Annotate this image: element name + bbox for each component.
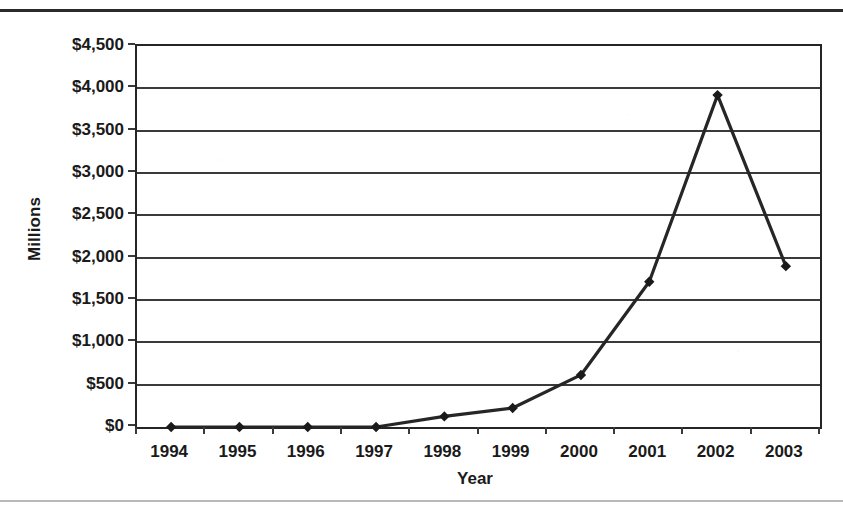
x-tick-mark [203,427,205,434]
x-tick-mark [750,427,752,434]
x-axis-title: Year [415,469,535,489]
page-rule-bottom [0,500,843,502]
y-tick-label: $3,500 [0,120,124,137]
x-tick-mark [477,427,479,434]
x-tick-mark [681,427,683,434]
y-tick-label: $2,500 [0,205,124,222]
y-tick-mark [128,128,135,130]
x-tick-mark [818,427,820,434]
y-tick-mark [128,255,135,257]
x-tick-label: 2003 [744,443,824,460]
y-axis-tick-labels: $0$500$1,000$1,500$2,000$2,500$3,000$3,5… [0,44,128,425]
y-tick-mark [128,170,135,172]
line-chart-figure: Millions $0$500$1,000$1,500$2,000$2,500$… [0,12,843,498]
y-tick-label: $2,000 [0,247,124,264]
data-point-marker [439,411,449,421]
x-axis-tick-labels: 1994199519961997199819992000200120022003 [135,427,822,471]
y-tick-label: $1,500 [0,290,124,307]
x-tick-mark [340,427,342,434]
y-tick-label: $0 [0,417,124,434]
plot-area [135,44,822,429]
y-tick-label: $3,000 [0,163,124,180]
y-tick-mark [128,85,135,87]
x-tick-mark [613,427,615,434]
x-tick-mark [135,427,137,434]
y-tick-label: $1,000 [0,332,124,349]
y-tick-mark [128,297,135,299]
series-line [171,95,786,427]
x-tick-mark [408,427,410,434]
x-tick-mark [272,427,274,434]
y-tick-label: $4,000 [0,78,124,95]
y-tick-mark [128,424,135,426]
data-point-marker [507,403,517,413]
series-layer [137,46,820,427]
plot-inner [137,46,820,427]
y-tick-mark [128,339,135,341]
y-tick-label: $4,500 [0,36,124,53]
series-markers [166,90,791,432]
data-point-marker [712,90,722,100]
y-tick-mark [128,382,135,384]
y-tick-mark [128,212,135,214]
y-tick-label: $500 [0,374,124,391]
y-tick-mark [128,43,135,45]
x-tick-mark [545,427,547,434]
data-point-marker [781,261,791,271]
